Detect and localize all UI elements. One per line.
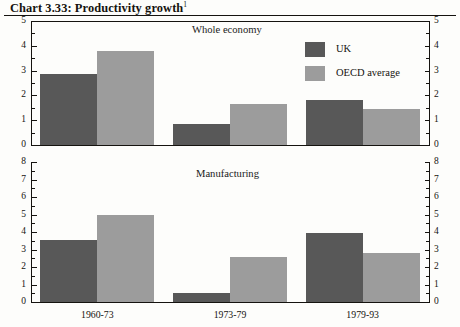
y-tick-left-1 — [32, 180, 37, 181]
y-ticklabel-right-1: 8 — [434, 157, 448, 167]
y-tick-right-1 — [426, 276, 429, 277]
y-tick-right-0 — [425, 21, 430, 22]
y-ticklabel-left-1: 6 — [12, 192, 26, 202]
y-tick-left-1 — [32, 293, 35, 294]
y-ticklabel-left-0: 3 — [12, 66, 26, 76]
legend-item-oecd: OECD average — [305, 66, 425, 83]
y-ticklabel-left-1: 4 — [12, 227, 26, 237]
x-axis-label-1960-73: 1960-73 — [57, 309, 137, 320]
y-tick-right-1 — [425, 180, 430, 181]
bar-uk-1960-73 — [40, 74, 97, 145]
y-ticklabel-right-0: 3 — [434, 66, 448, 76]
y-tick-left-1 — [32, 250, 37, 251]
y-ticklabel-left-1: 8 — [12, 157, 26, 167]
y-ticklabel-left-0: 0 — [12, 140, 26, 150]
y-tick-right-0 — [425, 120, 430, 121]
y-tick-left-0 — [32, 33, 35, 34]
y-tick-right-0 — [426, 33, 429, 34]
y-tick-left-0 — [32, 120, 37, 121]
y-ticklabel-left-1: 3 — [12, 245, 26, 255]
y-ticklabel-right-1: 2 — [434, 262, 448, 272]
x-axis-label-1973-79: 1973-79 — [190, 309, 270, 320]
bar-oecd-1960-73 — [97, 51, 154, 145]
y-tick-left-0 — [32, 71, 37, 72]
y-tick-left-1 — [32, 215, 37, 216]
panel-top-subtitle: Whole economy — [192, 24, 262, 35]
y-tick-right-1 — [426, 241, 429, 242]
y-tick-left-1 — [32, 197, 37, 198]
y-tick-right-1 — [425, 285, 430, 286]
y-tick-left-1 — [32, 285, 37, 286]
plot-baseline-1 — [31, 302, 429, 303]
y-tick-right-1 — [426, 188, 429, 189]
y-tick-left-1 — [32, 276, 35, 277]
y-tick-right-1 — [425, 267, 430, 268]
legend-item-uk: UK — [305, 42, 425, 59]
y-ticklabel-left-0: 1 — [12, 115, 26, 125]
y-tick-left-0 — [32, 133, 35, 134]
plot-frame-top-0 — [31, 21, 429, 22]
y-tick-right-0 — [425, 145, 430, 146]
y-tick-right-0 — [426, 133, 429, 134]
y-ticklabel-left-1: 5 — [12, 210, 26, 220]
y-tick-left-1 — [32, 267, 37, 268]
y-ticklabel-left-0: 5 — [12, 16, 26, 26]
y-tick-right-1 — [426, 223, 429, 224]
y-tick-right-1 — [425, 250, 430, 251]
y-tick-right-1 — [425, 162, 430, 163]
y-tick-right-0 — [425, 46, 430, 47]
page-title: Chart 3.33: Productivity growth1 — [10, 0, 187, 16]
bar-oecd-1973-79 — [230, 104, 287, 145]
y-axis-right-1 — [429, 162, 430, 303]
legend-swatch-uk-icon — [305, 42, 325, 57]
y-tick-right-0 — [426, 108, 429, 109]
y-tick-left-1 — [32, 302, 37, 303]
y-tick-left-0 — [32, 58, 35, 59]
y-tick-left-1 — [32, 241, 35, 242]
y-tick-right-1 — [426, 258, 429, 259]
bar-oecd-1979-93 — [363, 253, 420, 302]
y-tick-right-1 — [426, 293, 429, 294]
y-tick-right-0 — [425, 71, 430, 72]
y-ticklabel-right-0: 5 — [434, 16, 448, 26]
y-tick-right-1 — [425, 197, 430, 198]
y-ticklabel-left-1: 7 — [12, 175, 26, 185]
y-tick-left-1 — [32, 232, 37, 233]
y-tick-left-1 — [32, 162, 37, 163]
title-divider — [4, 15, 456, 16]
bar-oecd-1979-93 — [363, 109, 420, 145]
y-ticklabel-right-1: 7 — [434, 175, 448, 185]
y-ticklabel-left-1: 2 — [12, 262, 26, 272]
panel-bottom-subtitle: Manufacturing — [196, 168, 259, 179]
y-tick-left-0 — [32, 83, 35, 84]
legend-swatch-oecd-icon — [305, 66, 325, 81]
plot-baseline-0 — [31, 145, 429, 146]
y-tick-left-0 — [32, 46, 37, 47]
y-ticklabel-right-1: 3 — [434, 245, 448, 255]
y-tick-left-1 — [32, 206, 35, 207]
page-title-text: Chart 3.33: Productivity growth — [10, 1, 183, 15]
y-tick-left-1 — [32, 188, 35, 189]
y-ticklabel-right-1: 6 — [434, 192, 448, 202]
y-ticklabel-right-0: 1 — [434, 115, 448, 125]
y-tick-right-1 — [425, 215, 430, 216]
legend-label-uk: UK — [336, 43, 351, 54]
y-tick-left-0 — [32, 21, 37, 22]
y-ticklabel-right-0: 4 — [434, 41, 448, 51]
bar-uk-1979-93 — [306, 233, 363, 302]
y-tick-left-1 — [32, 258, 35, 259]
y-tick-right-0 — [426, 58, 429, 59]
y-ticklabel-right-0: 2 — [434, 90, 448, 100]
bar-uk-1973-79 — [173, 124, 230, 145]
y-ticklabel-left-1: 0 — [12, 297, 26, 307]
y-tick-left-0 — [32, 95, 37, 96]
y-tick-left-0 — [32, 145, 37, 146]
chart-page: Chart 3.33: Productivity growth1 Whole e… — [0, 0, 460, 327]
chart-legend: UK OECD average — [305, 42, 425, 88]
y-ticklabel-right-1: 4 — [434, 227, 448, 237]
y-tick-left-1 — [32, 223, 35, 224]
y-tick-right-1 — [425, 232, 430, 233]
y-ticklabel-right-1: 0 — [434, 297, 448, 307]
bar-oecd-1973-79 — [230, 257, 287, 302]
y-tick-left-0 — [32, 108, 35, 109]
